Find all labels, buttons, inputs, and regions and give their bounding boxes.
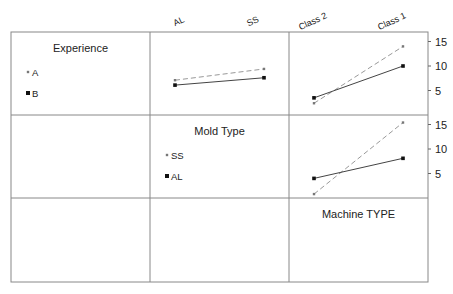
legend-marker	[166, 154, 168, 156]
data-point-al	[312, 177, 316, 181]
legend-entry-label: SS	[171, 150, 184, 161]
y-tick-label: 5	[435, 168, 441, 180]
data-point-ss	[402, 121, 404, 123]
series-line-a	[314, 46, 403, 103]
legend-marker	[27, 71, 29, 73]
column-tick-label: SS	[245, 14, 260, 28]
legend-title: Experience	[53, 42, 108, 54]
data-point-a	[313, 102, 315, 104]
column-tick-label: Class 2	[297, 10, 328, 32]
y-tick-label: 15	[435, 36, 447, 48]
data-point-a	[402, 45, 404, 47]
legends: ExperienceABMold TypeSSALMachine TYPE	[26, 42, 395, 220]
series-line-al	[314, 158, 403, 178]
y-axes: 1510515105	[428, 36, 447, 180]
data-point-al	[401, 157, 405, 161]
data-point-b	[262, 76, 266, 80]
series-line-b	[175, 78, 264, 85]
data-point-b	[312, 96, 316, 100]
legend-entry-label: B	[32, 88, 38, 99]
legend-title: Machine TYPE	[322, 208, 395, 220]
legend-marker	[26, 91, 30, 95]
y-tick-label: 5	[435, 85, 441, 97]
y-tick-label: 10	[435, 143, 447, 155]
y-tick-label: 10	[435, 60, 447, 72]
data-point-b	[173, 83, 177, 87]
y-tick-label: 15	[435, 119, 447, 131]
legend-entry-label: AL	[171, 171, 183, 182]
interaction-plot-matrix: ALSSClass 2Class 1 1510515105 Experience…	[0, 0, 453, 294]
legend-marker	[165, 174, 169, 178]
series-line-b	[314, 66, 403, 98]
data-point-a	[174, 79, 176, 81]
column-tick-labels: ALSSClass 2Class 1	[172, 10, 408, 32]
series-line-ss	[314, 123, 403, 195]
column-tick-label: AL	[172, 14, 186, 28]
panel-grid	[11, 32, 428, 282]
data-point-a	[263, 68, 265, 70]
legend-title: Mold Type	[194, 125, 245, 137]
data-point-ss	[313, 193, 315, 195]
legend-entry-label: A	[32, 67, 39, 78]
column-tick-label: Class 1	[376, 10, 407, 32]
data-point-b	[401, 64, 405, 68]
grid-border	[11, 32, 428, 282]
